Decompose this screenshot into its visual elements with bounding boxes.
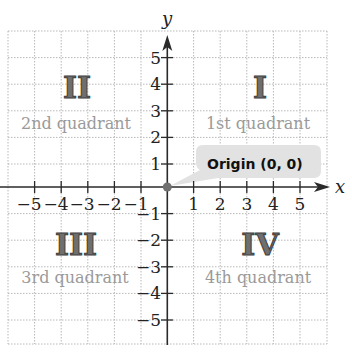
x-tick-label: 1 [188,194,199,214]
quadrant-numeral-II: II [63,70,91,105]
y-axis-label: y [161,8,173,29]
y-tick-label: −5 [136,310,161,330]
x-tick-label: 2 [215,194,226,214]
origin-point [163,183,172,192]
y-tick-label: −1 [136,204,161,224]
y-tick-label: 5 [150,48,161,68]
y-tick-label: −3 [136,257,161,277]
y-tick-label: 4 [150,74,161,94]
x-axis-label: x [335,176,345,197]
y-tick-label: 3 [150,101,161,121]
x-tick-label: 4 [268,194,279,214]
quadrant-numeral-III: III [55,227,97,262]
origin-callout: Origin (0, 0) [170,145,321,186]
y-tick-label: −2 [136,230,161,250]
x-tick-label: −2 [96,194,121,214]
x-tick-label: −3 [69,194,94,214]
quadrant-label-4th: 4th quadrant [205,268,312,287]
coordinate-plane-diagram: Origin (0, 0) x y −5 −4 [0,0,352,353]
y-tick-label: 2 [150,127,161,147]
origin-callout-label: Origin (0, 0) [207,156,303,172]
quadrant-label-1st: 1st quadrant [206,114,311,133]
y-tick-label: 1 [150,154,161,174]
quadrant-numeral-I: I [253,70,267,105]
quadrant-label-3rd: 3rd quadrant [21,268,129,287]
x-tick-label: −5 [16,194,41,214]
x-tick-label: −4 [43,194,68,214]
x-tick-label: 5 [295,194,306,214]
y-tick-label: −4 [136,283,161,303]
quadrant-numeral-IV: IV [241,227,279,262]
y-tick-labels: 5 4 3 2 1 −1 −2 −3 −4 −5 [136,48,161,331]
x-tick-label: 3 [241,194,252,214]
quadrant-label-2nd: 2nd quadrant [21,114,132,133]
